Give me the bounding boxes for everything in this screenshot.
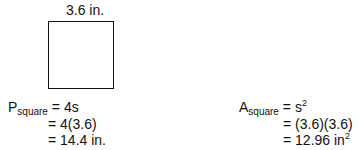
perimeter-step-2: = 4(3.6): [48, 116, 97, 132]
area-step-2: = (3.6)(3.6): [283, 116, 353, 132]
perimeter-subscript: square: [17, 106, 48, 117]
area-subscript: square: [248, 106, 279, 117]
area-symbol: A: [239, 99, 248, 115]
perimeter-step-3: = 14.4 in.: [48, 132, 106, 148]
area-step-1-exponent: 2: [302, 98, 307, 108]
area-step-3-text: = 12.96 in: [283, 132, 345, 148]
perimeter-symbol: P: [8, 99, 17, 115]
square-shape: [48, 21, 114, 89]
perimeter-formula-line-1: Psquare = 4s: [8, 99, 79, 115]
area-formula-line-1: Asquare = s2: [239, 99, 307, 115]
area-step-3-exponent: 2: [345, 131, 350, 141]
side-length-label: 3.6 in.: [66, 2, 104, 18]
area-step-1: = s: [283, 99, 302, 115]
area-step-3: = 12.96 in2: [283, 132, 350, 148]
perimeter-step-1: = 4s: [52, 99, 79, 115]
